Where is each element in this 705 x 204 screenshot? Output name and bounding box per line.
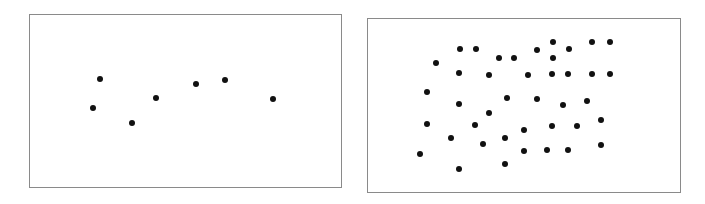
data-point (502, 161, 508, 167)
data-point (270, 96, 276, 102)
data-point (222, 77, 228, 83)
data-point (456, 101, 462, 107)
data-point (90, 105, 96, 111)
data-point (193, 81, 199, 87)
data-point (565, 71, 571, 77)
data-point (598, 142, 604, 148)
data-point (549, 123, 555, 129)
data-point (496, 55, 502, 61)
data-point (560, 102, 566, 108)
data-point (480, 141, 486, 147)
data-point (502, 135, 508, 141)
data-point (473, 46, 479, 52)
data-point (550, 55, 556, 61)
data-point (534, 47, 540, 53)
data-point (521, 127, 527, 133)
data-point (424, 121, 430, 127)
data-point (566, 46, 572, 52)
data-point (534, 96, 540, 102)
data-point (424, 89, 430, 95)
data-point (457, 46, 463, 52)
data-point (504, 95, 510, 101)
scatter-panel-dense (367, 18, 681, 193)
data-point (486, 110, 492, 116)
data-point (417, 151, 423, 157)
data-point (456, 166, 462, 172)
data-point (550, 39, 556, 45)
data-point (511, 55, 517, 61)
data-point (472, 122, 478, 128)
data-point (607, 39, 613, 45)
data-point (589, 39, 595, 45)
data-point (129, 120, 135, 126)
data-point (97, 76, 103, 82)
data-point (607, 71, 613, 77)
data-point (448, 135, 454, 141)
data-point (565, 147, 571, 153)
data-point (153, 95, 159, 101)
data-point (433, 60, 439, 66)
data-point (584, 98, 590, 104)
data-point (525, 72, 531, 78)
data-point (486, 72, 492, 78)
data-point (589, 71, 595, 77)
data-point (544, 147, 550, 153)
data-point (549, 71, 555, 77)
data-point (521, 148, 527, 154)
scatter-panel-sparse (29, 14, 342, 188)
data-point (598, 117, 604, 123)
data-point (456, 70, 462, 76)
data-point (574, 123, 580, 129)
